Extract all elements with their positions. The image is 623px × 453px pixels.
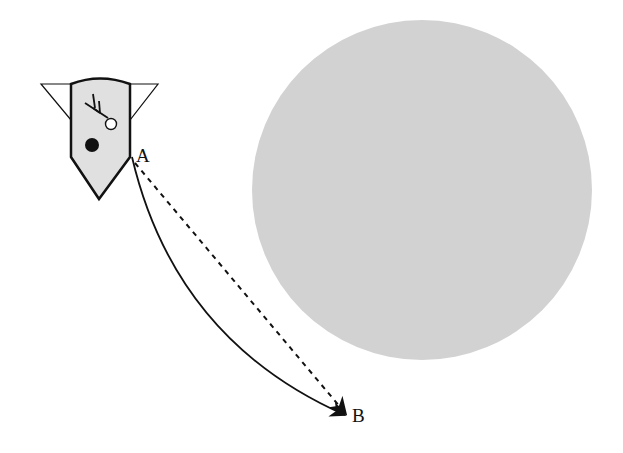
filled-circle-icon bbox=[85, 138, 99, 152]
vessel-icon bbox=[41, 79, 158, 200]
right-wing bbox=[130, 84, 158, 120]
open-circle-icon bbox=[106, 119, 117, 130]
point-b-label: B bbox=[352, 406, 365, 425]
large-gray-circle bbox=[252, 20, 592, 360]
vessel-body bbox=[71, 79, 130, 200]
diagram-canvas bbox=[0, 0, 623, 453]
point-a-label: A bbox=[136, 146, 150, 165]
left-wing bbox=[41, 84, 71, 120]
